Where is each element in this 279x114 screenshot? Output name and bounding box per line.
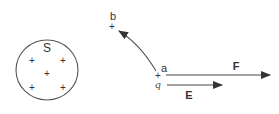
point-a-label: a	[161, 62, 168, 74]
field-label: E	[185, 89, 192, 101]
point-b: b +	[109, 10, 116, 32]
path-a-to-b-arrow	[119, 31, 156, 71]
force-vector: F	[166, 60, 270, 75]
diagram-svg: S + + + + + b + a + q F E	[0, 0, 279, 114]
plus-charge-icon: +	[29, 82, 35, 93]
point-a: a + q	[155, 62, 168, 90]
force-label: F	[233, 60, 240, 72]
plus-charge-icon: +	[60, 82, 66, 93]
plus-charge-icon: +	[60, 55, 66, 66]
charge-q-label: q	[155, 78, 161, 90]
diagram-canvas: S + + + + + b + a + q F E	[0, 0, 279, 114]
plus-charge-icon: +	[109, 21, 115, 32]
field-vector: E	[167, 85, 222, 101]
plus-charge-icon: +	[44, 68, 50, 79]
charged-sphere: S + + + + +	[16, 40, 78, 100]
plus-charge-icon: +	[29, 55, 35, 66]
sphere-label: S	[43, 41, 51, 55]
